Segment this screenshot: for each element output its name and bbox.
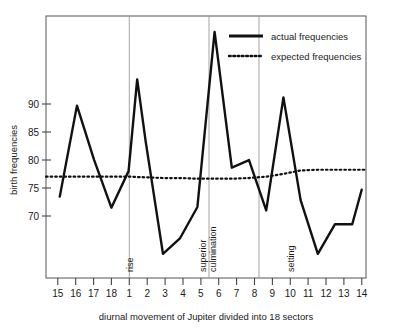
x-tick-label-3: 3 [162, 288, 168, 299]
series-actual-frequencies [60, 32, 362, 254]
x-tick-label-4: 4 [180, 288, 186, 299]
x-axis-tick-labels: 15 16 17 18 1 2 3 4 5 6 7 8 9 10 11 12 1… [52, 288, 368, 299]
y-tick-label-85: 85 [28, 127, 40, 138]
x-tick-label-13: 13 [338, 288, 350, 299]
legend-label-expected: expected frequencies [271, 51, 362, 62]
x-tick-label-1: 1 [127, 288, 133, 299]
x-tick-label-18: 18 [106, 288, 118, 299]
y-tick-label-75: 75 [28, 183, 40, 194]
x-tick-label-9: 9 [270, 288, 276, 299]
x-tick-label-17: 17 [88, 288, 100, 299]
y-tick-label-80: 80 [28, 155, 40, 166]
x-tick-label-10: 10 [285, 288, 297, 299]
x-tick-label-11: 11 [303, 288, 314, 299]
chart-root: 90 85 80 75 70 [0, 0, 396, 329]
x-tick-label-15: 15 [52, 288, 64, 299]
annotation-label-rise: rise [125, 257, 135, 272]
x-tick-label-6: 6 [216, 288, 222, 299]
y-axis-title: birth frequencies [8, 125, 19, 195]
y-tick-label-70: 70 [28, 211, 40, 222]
chart-legend: actual frequencies expected frequencies [229, 31, 362, 62]
x-tick-label-5: 5 [198, 288, 204, 299]
annotation-labels: rise superior culmination setting [125, 226, 296, 272]
birth-frequencies-line-chart: 90 85 80 75 70 [0, 0, 396, 329]
x-tick-label-7: 7 [234, 288, 240, 299]
annotation-label-superior: superior [198, 239, 208, 272]
series-expected-frequencies [46, 170, 366, 179]
y-tick-label-90: 90 [28, 99, 40, 110]
annotation-label-culmination: culmination [208, 226, 218, 272]
x-tick-label-12: 12 [320, 288, 332, 299]
x-tick-label-14: 14 [356, 288, 368, 299]
x-axis-title: diurnal movement of Jupiter divided into… [99, 311, 314, 322]
y-axis-tick-labels: 90 85 80 75 70 [28, 99, 40, 222]
x-axis-ticks [58, 278, 362, 285]
x-tick-label-2: 2 [144, 288, 150, 299]
legend-label-actual: actual frequencies [271, 31, 348, 42]
x-tick-label-16: 16 [70, 288, 82, 299]
annotation-label-setting: setting [286, 245, 296, 272]
x-tick-label-8: 8 [252, 288, 258, 299]
